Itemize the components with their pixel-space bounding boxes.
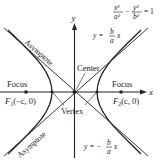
eq-x-num: x²: [113, 3, 120, 12]
asym-pos-var: x: [116, 31, 121, 40]
asymptote-lower-label: Asymptote: [15, 129, 48, 159]
focus-right-label: Focus: [112, 79, 132, 89]
eq-y-num: y²: [132, 3, 139, 12]
vertex-label: Vertex: [61, 106, 84, 116]
asymptote-neg-equation: y = − b a x: [83, 138, 118, 156]
vertex-left-point: [51, 91, 54, 94]
focus-left-label: Focus: [7, 79, 27, 89]
eq-rhs: = 1: [144, 7, 154, 16]
vertex-right-point: [96, 91, 99, 94]
eq-y-den: b²: [133, 12, 140, 21]
center-label: Center: [77, 63, 100, 73]
hyperbola-diagram: x y Center Vertex Focus Focus F1(−c, 0) …: [0, 0, 162, 166]
vertex-pointer-left: [53, 93, 64, 105]
asym-neg-num: b: [107, 138, 111, 147]
asym-neg-den: a: [107, 147, 111, 156]
y-axis-arrow-icon: [72, 23, 77, 30]
asym-pos-lhs: y =: [92, 31, 103, 40]
asymptote-pos-equation: y = b a x: [92, 27, 121, 45]
eq-minus: −: [125, 7, 129, 16]
asym-neg-var: x: [113, 142, 118, 151]
focus-right-point: [119, 90, 123, 94]
center-point: [73, 90, 77, 94]
f2-label: F2(c, 0): [112, 96, 139, 107]
y-axis-label: y: [71, 13, 76, 23]
x-axis-label: x: [148, 87, 153, 97]
asym-neg-lhs: y = −: [83, 142, 101, 151]
vertex-pointer-right: [85, 93, 96, 105]
asym-pos-den: a: [110, 36, 114, 45]
eq-x-den: a²: [114, 12, 121, 21]
asym-pos-num: b: [110, 27, 114, 36]
asymptote-upper-label: Asymptote: [23, 38, 56, 68]
f1-label: F1(−c, 0): [4, 96, 36, 107]
x-axis-arrow-icon: [140, 90, 147, 95]
focus-left-point: [24, 90, 28, 94]
hyperbola-equation: x² a² − y² b² = 1: [113, 3, 154, 21]
